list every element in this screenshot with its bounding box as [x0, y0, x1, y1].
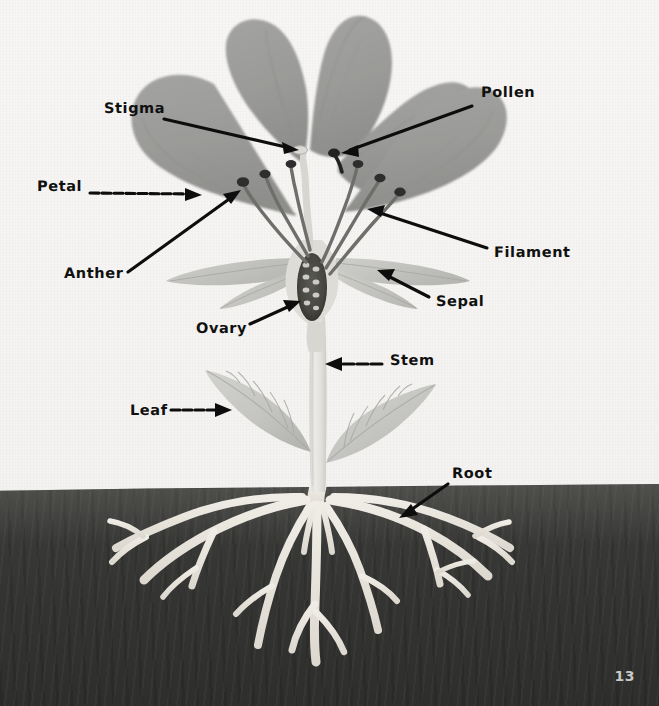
label-ovary: Ovary — [196, 322, 247, 337]
label-pollen: Pollen — [481, 86, 535, 101]
arrow-petal — [90, 193, 192, 194]
label-filament: Filament — [494, 246, 571, 261]
arrow-stem-head — [325, 357, 342, 371]
arrow-ovary — [250, 300, 301, 324]
pollen-grains — [328, 149, 340, 158]
leaf-right — [326, 384, 436, 463]
arrow-anther — [128, 190, 241, 272]
label-stem: Stem — [390, 354, 435, 369]
page-number: 13 — [615, 668, 635, 684]
label-petal: Petal — [37, 180, 82, 195]
root-system — [110, 486, 512, 662]
label-leaf: Leaf — [130, 404, 168, 419]
arrow-petal-head — [185, 188, 202, 201]
diagram-page: Stigma Pollen Petal Anther Filament Sepa… — [0, 0, 659, 706]
label-root: Root — [452, 467, 492, 482]
arrow-leaf-head — [215, 403, 232, 417]
flower-anatomy-artwork — [0, 0, 659, 706]
petals — [132, 16, 507, 216]
label-sepal: Sepal — [436, 295, 484, 310]
label-stigma: Stigma — [104, 102, 165, 117]
label-anther: Anther — [64, 267, 123, 282]
